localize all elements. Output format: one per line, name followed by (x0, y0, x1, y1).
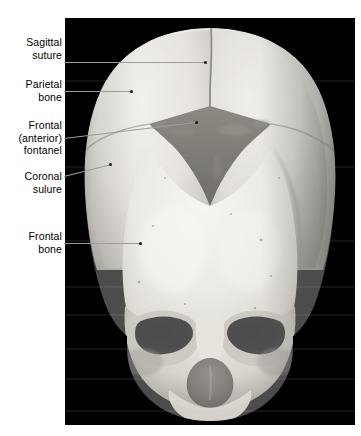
leader-line-frontal-bone (64, 243, 140, 244)
marker-parietal-bone (130, 90, 133, 93)
label-parietal-bone: Parietal bone (0, 78, 62, 103)
leader-line-parietal-bone (64, 91, 131, 92)
fetal-skull (65, 18, 355, 425)
label-frontal-bone: Frontal bone (0, 230, 62, 255)
figure-page: Sagittal suture Parietal bone Frontal (a… (0, 0, 361, 436)
marker-sagittal-suture (204, 61, 207, 64)
label-sagittal-suture: Sagittal suture (0, 36, 62, 61)
label-frontal-anterior-fontanel: Frontal (anterior) fontanel (0, 119, 62, 157)
label-coronal-suture: Coronal sulure (0, 170, 62, 195)
marker-frontal-fontanel (195, 121, 198, 124)
marker-coronal-suture (109, 163, 112, 166)
marker-frontal-bone (139, 242, 142, 245)
leader-line-sagittal-suture (64, 62, 205, 63)
specimen-photograph (65, 18, 355, 425)
